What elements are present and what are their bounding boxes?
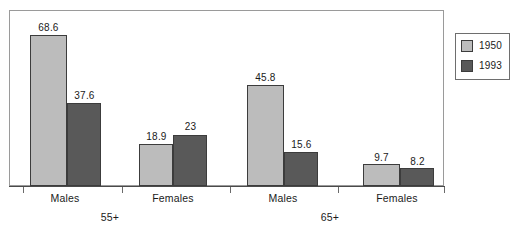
value-label-1950-55plus-females: 18.9 — [136, 131, 177, 142]
legend-swatch-1950-icon — [461, 40, 473, 52]
value-label-1993-65plus-females: 8.2 — [397, 156, 438, 167]
value-label-1993-65plus-males: 15.6 — [281, 139, 322, 150]
group-label-65plus: 65+ — [300, 211, 360, 223]
axis-tick-1 — [122, 187, 123, 193]
axis-tick-4 — [444, 187, 445, 193]
bar-1950-55plus-females[interactable] — [139, 144, 173, 186]
axis-tick-3 — [338, 187, 339, 193]
value-label-1950-55plus-males: 68.6 — [28, 22, 69, 33]
bar-1993-65plus-males[interactable] — [284, 152, 318, 186]
chart-screenshot: 68.6 37.6 18.9 23 45.8 15.6 9.7 8.2 Male… — [0, 0, 517, 232]
bar-1950-65plus-males[interactable] — [247, 85, 284, 186]
category-label-65plus-males: Males — [243, 192, 323, 204]
bar-1993-55plus-males[interactable] — [67, 103, 101, 186]
legend-label-1950: 1950 — [479, 40, 502, 52]
value-label-1993-55plus-females: 23 — [170, 121, 211, 132]
x-axis-line — [9, 186, 445, 187]
bar-1950-55plus-males[interactable] — [30, 35, 67, 186]
legend-item-1993[interactable]: 1993 — [461, 60, 502, 72]
legend-label-1993: 1993 — [479, 60, 502, 72]
legend-item-1950[interactable]: 1950 — [461, 40, 502, 52]
axis-tick-2 — [230, 187, 231, 193]
group-label-55plus: 55+ — [80, 211, 140, 223]
value-label-1950-65plus-females: 9.7 — [361, 152, 402, 163]
bar-1950-65plus-females[interactable] — [363, 164, 400, 186]
axis-tick-0 — [23, 187, 24, 193]
bar-1993-65plus-females[interactable] — [400, 168, 434, 186]
legend-swatch-1993-icon — [461, 60, 473, 72]
value-label-1993-55plus-males: 37.6 — [64, 90, 105, 101]
category-label-65plus-females: Females — [357, 192, 437, 204]
legend: 1950 1993 — [455, 33, 510, 80]
value-label-1950-65plus-males: 45.8 — [245, 72, 286, 83]
bar-1993-55plus-females[interactable] — [173, 135, 207, 186]
category-label-55plus-females: Females — [133, 192, 213, 204]
category-label-55plus-males: Males — [25, 192, 105, 204]
